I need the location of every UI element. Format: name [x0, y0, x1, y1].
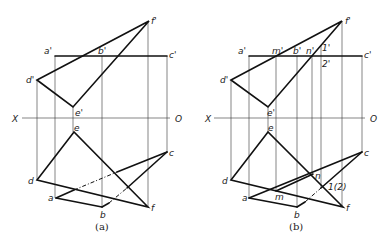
- label-c: c: [169, 148, 174, 158]
- label-c: c: [364, 148, 369, 158]
- label-1-prime: 1': [322, 43, 330, 53]
- top-edge-bc-visible1: [297, 202, 305, 207]
- label-f-prime: f': [151, 16, 157, 26]
- label-e-prime: e': [267, 108, 275, 118]
- top-edge-bc-visible2: [127, 152, 167, 188]
- label-m: m: [275, 192, 284, 202]
- label-e: e: [74, 123, 80, 133]
- label-a: a: [48, 193, 54, 203]
- label-e: e: [268, 123, 274, 133]
- axis-label-o: O: [175, 114, 182, 124]
- label-d: d: [28, 176, 34, 186]
- label-b-prime: b': [293, 46, 301, 56]
- label-b: b: [100, 210, 106, 220]
- caption-a: (a): [95, 221, 109, 232]
- top-edge-ac-hidden: [74, 172, 117, 190]
- label-n-prime: n': [306, 46, 314, 56]
- label-d-prime: d': [26, 75, 34, 85]
- top-edge-bc-visible1: [102, 203, 109, 207]
- axis-label-x: X: [11, 114, 19, 124]
- label-1-2: 1(2): [328, 182, 346, 192]
- label-f: f: [151, 203, 156, 213]
- label-f-prime: f': [345, 16, 351, 26]
- label-m-prime: m': [272, 46, 283, 56]
- label-c-prime: c': [364, 50, 371, 60]
- top-triangle-def: [231, 132, 343, 207]
- top-edge-ab: [56, 198, 102, 207]
- top-edge-ac-visible2: [117, 152, 167, 172]
- label-b: b: [294, 210, 300, 220]
- top-edge-ab: [249, 198, 297, 207]
- label-a-prime: a': [238, 46, 246, 56]
- label-d: d: [222, 176, 228, 186]
- front-triangle-def: [37, 21, 149, 107]
- label-b-prime: b': [98, 46, 106, 56]
- label-n: n: [315, 171, 321, 181]
- top-triangle-def: [37, 132, 148, 207]
- axis-label-x: X: [204, 114, 212, 124]
- intersection-line-mn: [276, 174, 313, 191]
- panel-a: X O a' b' c' d' e' f' e d a b f c (a): [11, 16, 182, 232]
- label-a: a: [242, 193, 248, 203]
- caption-b: (b): [289, 221, 303, 232]
- label-e-prime: e': [75, 108, 83, 118]
- top-edge-ac-visible1: [56, 190, 74, 198]
- label-a-prime: a': [44, 46, 52, 56]
- panel-b: X O a' m' b' n' 1' 2' c' d' e' f' e d a …: [204, 16, 377, 232]
- axis-label-o: O: [370, 114, 377, 124]
- projection-diagram: X O a' b' c' d' e' f' e d a b f c (a): [0, 0, 383, 242]
- label-c-prime: c': [169, 50, 176, 60]
- label-2-prime: 2': [322, 59, 330, 69]
- label-f: f: [346, 203, 351, 213]
- label-d-prime: d': [220, 75, 228, 85]
